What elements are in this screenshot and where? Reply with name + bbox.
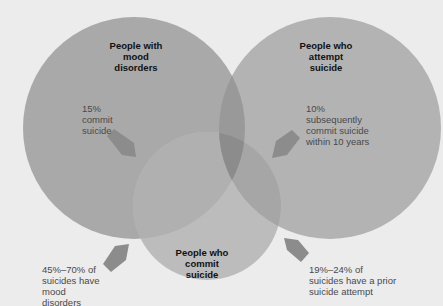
note-mood-disorders: 15% commit suicide	[82, 103, 113, 136]
title-attempt-suicide: People who attempt suicide	[276, 40, 376, 73]
note-bottom-right: 19%–24% of suicides have a prior suicide…	[309, 264, 396, 297]
title-commit-suicide: People who commit suicide	[152, 247, 252, 280]
venn-diagram: People with mood disorders People who at…	[0, 0, 443, 306]
arrow-icon-bottom-left	[103, 244, 129, 272]
note-attempt-suicide: 10% subsequently commit suicide within 1…	[306, 103, 369, 147]
arrow-icon-bottom-right	[284, 238, 309, 262]
title-mood-disorders: People with mood disorders	[86, 40, 186, 73]
note-bottom-left: 45%–70% of suicides have mood disorders	[42, 264, 100, 306]
